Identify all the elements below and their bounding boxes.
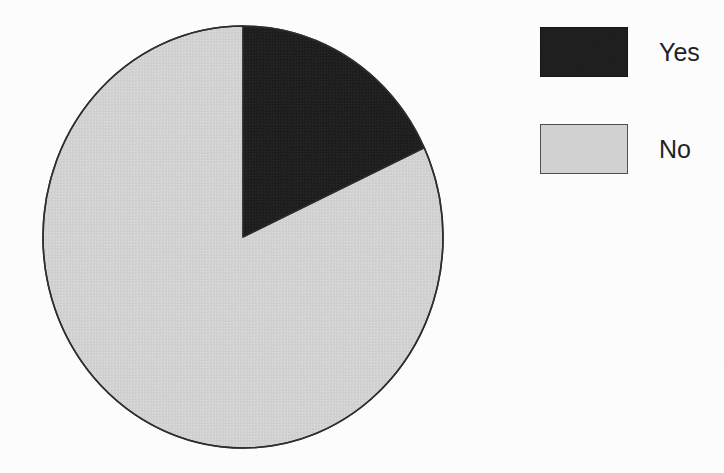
legend-label-no: No: [659, 137, 691, 162]
pie-chart-area: [33, 15, 453, 458]
legend-item-no[interactable]: No: [540, 121, 724, 177]
legend-swatch-no: [540, 124, 628, 174]
legend-swatch-yes: [540, 27, 628, 77]
legend-label-yes: Yes: [659, 40, 700, 65]
legend-item-yes[interactable]: Yes: [540, 24, 724, 80]
pie-chart-svg: [33, 15, 453, 458]
pie-chart-figure: Yes No: [0, 0, 724, 473]
chart-legend: Yes No: [540, 20, 724, 185]
